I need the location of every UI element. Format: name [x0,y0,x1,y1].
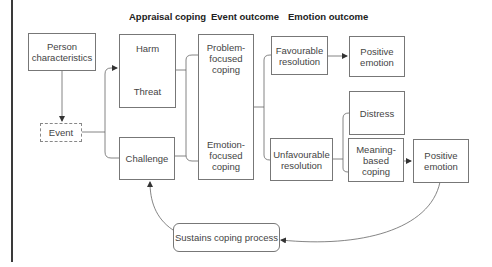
unfavourable-resolution-box: Unfavourable resolution [270,138,333,181]
meaning-based-coping-box: Meaning- based coping [348,138,404,182]
challenge-label: Challenge [126,153,169,164]
problem-focused-coping-label: Problem- focused coping [207,42,246,75]
threat-label: Threat [134,86,161,97]
person-characteristics-box: Person characteristics [28,33,96,71]
person-characteristics-label: Person characteristics [32,41,93,63]
event-label: Event [49,127,73,138]
coping-type-box: Problem- focused coping Emotion- focused… [198,34,254,180]
sustains-coping-process-label: Sustains coping process [175,232,278,243]
favourable-resolution-box: Favourable resolution [271,36,328,75]
meaning-based-coping-label: Meaning- based coping [356,144,396,177]
harm-label: Harm [136,43,159,54]
favourable-resolution-label: Favourable resolution [276,45,324,67]
header-event-outcome: Event outcome [211,11,279,22]
header-appraisal-coping: Appraisal coping [129,11,206,22]
left-margin-rule [11,0,13,262]
distress-box: Distress [349,91,405,135]
positive-emotion-top-box: Positive emotion [349,36,405,77]
sustains-coping-process-box: Sustains coping process [173,223,280,252]
header-emotion-outcome: Emotion outcome [288,11,368,22]
challenge-box: Challenge [119,137,175,180]
distress-label: Distress [360,108,394,119]
unfavourable-resolution-label: Unfavourable resolution [273,149,330,171]
event-box: Event [40,123,82,142]
harm-threat-box: Harm Threat [119,34,176,108]
positive-emotion-top-label: Positive emotion [360,46,394,68]
positive-emotion-right-box: Positive emotion [413,139,469,183]
emotion-focused-coping-label: Emotion- focused coping [207,139,245,172]
positive-emotion-right-label: Positive emotion [424,150,458,172]
